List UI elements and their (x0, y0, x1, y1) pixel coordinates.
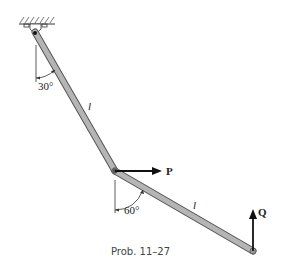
mechanism-diagram: 30° l 60° l P Q (0, 0, 281, 276)
figure-caption: Prob. 11–27 (0, 246, 281, 257)
lower-length-label: l (193, 199, 196, 211)
upper-length-label: l (88, 100, 91, 112)
force-p-label: P (166, 165, 173, 177)
top-pin (33, 31, 37, 35)
upper-angle-label: 30° (38, 80, 53, 92)
lower-angle-label: 60° (124, 204, 139, 216)
force-q-label: Q (258, 206, 267, 218)
force-q-arrow: Q (249, 206, 267, 251)
upper-bar (35, 32, 115, 171)
